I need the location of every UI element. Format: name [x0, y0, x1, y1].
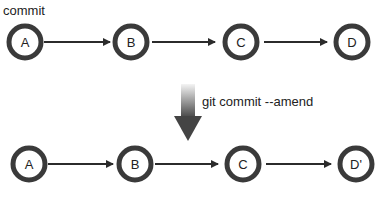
bottom-node-b: B — [119, 148, 151, 180]
top-node-c: C — [225, 26, 257, 58]
top-node-b: B — [115, 26, 147, 58]
top-node-d: D — [336, 26, 368, 58]
bottom-node-c: C — [227, 148, 259, 180]
bottom-node-a: A — [13, 148, 45, 180]
svg-text:D: D — [347, 35, 356, 50]
svg-text:B: B — [127, 35, 136, 50]
top-node-a: A — [9, 26, 41, 58]
down-arrow-icon — [174, 84, 202, 141]
svg-text:C: C — [236, 35, 245, 50]
commit-diagram: A B C D A B C D' — [0, 0, 377, 201]
svg-text:A: A — [25, 157, 34, 172]
svg-text:D': D' — [350, 157, 362, 172]
bottom-node-d-prime: D' — [340, 148, 372, 180]
svg-text:A: A — [21, 35, 30, 50]
svg-text:B: B — [131, 157, 140, 172]
svg-text:C: C — [238, 157, 247, 172]
